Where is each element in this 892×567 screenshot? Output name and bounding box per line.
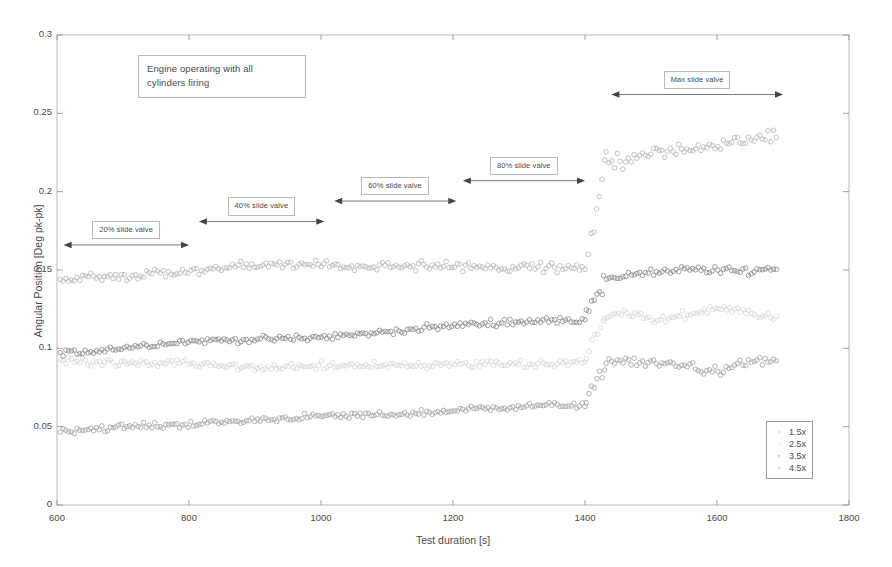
annotation-span-arrow-span-80 bbox=[463, 178, 585, 184]
annotation-label-20-slide-valve: 20% slide valve bbox=[92, 221, 160, 239]
annotation-label-max-slide-valve: Max slide valve bbox=[664, 71, 731, 89]
legend-item-label: 2.5x bbox=[789, 439, 806, 449]
x-axis-title: Test duration [s] bbox=[353, 534, 553, 546]
y-tick-label: 0.1 bbox=[0, 341, 52, 352]
annotation-span-arrow-span-60 bbox=[334, 198, 456, 204]
x-tick-label: 1800 bbox=[819, 512, 879, 523]
plot-frame bbox=[57, 35, 849, 505]
annotation-label-40-slide-valve: 40% slide valve bbox=[228, 197, 296, 215]
legend-marker-icon: ◦ bbox=[772, 440, 786, 449]
y-tick-label: 0.15 bbox=[0, 263, 52, 274]
legend-marker-icon: ◦ bbox=[772, 452, 786, 461]
legend-item-label: 1.5x bbox=[789, 427, 806, 437]
annotation-label-80-slide-valve: 80% slide valve bbox=[490, 157, 558, 175]
chart-legend[interactable]: ◦ 1.5x ◦ 2.5x ◦ 3.5x ◦ 4.5x bbox=[766, 421, 813, 479]
legend-item-4[interactable]: ◦ 4.5x bbox=[772, 462, 806, 474]
legend-item-label: 4.5x bbox=[789, 463, 806, 473]
engine-note-line-2: cylinders firing bbox=[147, 77, 209, 88]
engine-note-line-1: Engine operating with all bbox=[147, 63, 253, 74]
x-tick-label: 600 bbox=[27, 512, 87, 523]
chart-figure: Angular Position [Deg pk-pk] Test durati… bbox=[0, 0, 892, 567]
y-tick-label: 0.3 bbox=[0, 28, 52, 39]
legend-item-2[interactable]: ◦ 2.5x bbox=[772, 438, 806, 450]
annotation-span-arrow-span-max bbox=[611, 91, 783, 97]
x-tick-label: 1400 bbox=[555, 512, 615, 523]
data-points-group bbox=[58, 128, 779, 436]
annotation-span-arrow-span-20 bbox=[64, 242, 189, 248]
legend-item-1[interactable]: ◦ 1.5x bbox=[772, 426, 806, 438]
x-tick-label: 1600 bbox=[687, 512, 747, 523]
annotation-engine-operating-note: Engine operating with all cylinders firi… bbox=[138, 55, 306, 98]
legend-item-3[interactable]: ◦ 3.5x bbox=[772, 450, 806, 462]
scatter-plot-canvas bbox=[0, 0, 892, 567]
legend-marker-icon: ◦ bbox=[772, 428, 786, 437]
y-tick-label: 0.2 bbox=[0, 185, 52, 196]
annotation-span-arrow-span-40 bbox=[199, 218, 324, 224]
x-tick-label: 1200 bbox=[423, 512, 483, 523]
y-tick-label: 0 bbox=[0, 498, 52, 509]
legend-marker-icon: ◦ bbox=[772, 464, 786, 473]
annotation-label-60-slide-valve: 60% slide valve bbox=[361, 177, 429, 195]
legend-item-label: 3.5x bbox=[789, 451, 806, 461]
x-tick-label: 1000 bbox=[291, 512, 351, 523]
y-tick-label: 0.05 bbox=[0, 420, 52, 431]
y-tick-label: 0.25 bbox=[0, 106, 52, 117]
x-tick-label: 800 bbox=[159, 512, 219, 523]
